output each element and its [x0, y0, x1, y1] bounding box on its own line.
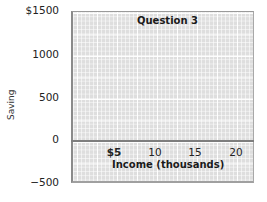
x-axis-label: Income (thousands)	[112, 159, 224, 170]
y-tick-minus-500: −500	[30, 176, 59, 188]
y-tick-500: 500	[39, 91, 59, 103]
y-tick-1000: 1000	[32, 48, 59, 60]
y-tick-1500: $1500	[26, 4, 59, 16]
x-tick-15: 15	[188, 146, 201, 158]
y-axis-label: Saving	[6, 90, 16, 120]
plot-area-grid	[71, 11, 254, 183]
x-tick-10: 10	[148, 146, 161, 158]
y-tick-0: 0	[52, 133, 59, 145]
x-tick-5: $5	[107, 146, 122, 158]
chart-title: Question 3	[137, 15, 198, 26]
zero-axis-line	[71, 140, 254, 142]
x-tick-20: 20	[229, 146, 242, 158]
